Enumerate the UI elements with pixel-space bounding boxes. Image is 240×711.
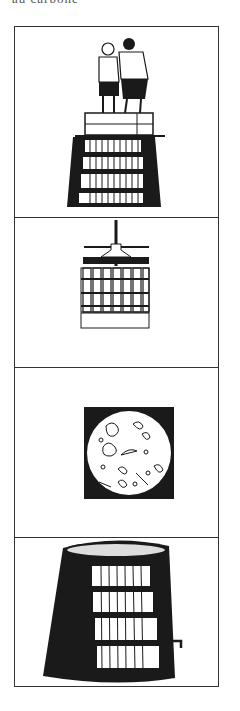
panel-microscope bbox=[15, 368, 218, 537]
wine-press-illustration bbox=[15, 218, 218, 367]
caption-text: au carbone bbox=[12, 0, 79, 7]
fermenting-vat-illustration bbox=[15, 538, 218, 688]
panel-treading bbox=[15, 27, 218, 217]
panel-press bbox=[15, 218, 218, 367]
grape-treading-illustration bbox=[15, 27, 218, 217]
illustration-frame bbox=[14, 26, 219, 687]
yeast-microscope-illustration bbox=[15, 368, 218, 537]
panel-vat bbox=[15, 538, 218, 688]
